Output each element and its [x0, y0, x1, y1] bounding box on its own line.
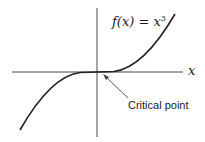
critical-point-label: Critical point [128, 99, 189, 111]
cubic-graph [0, 0, 205, 142]
function-label: f(x) = x3 [112, 14, 166, 29]
function-exponent: 3 [161, 14, 166, 23]
annotation-arrow [105, 76, 128, 98]
x-axis-label: x [188, 63, 195, 78]
